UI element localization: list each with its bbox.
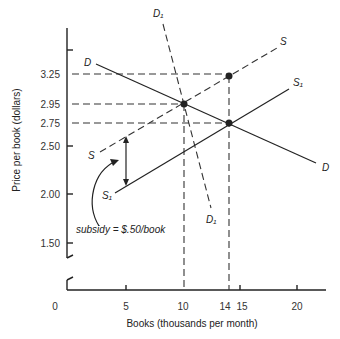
x-tick-0: 0 [52,301,58,312]
label-d-end: D [322,162,329,173]
x-axis [67,285,326,290]
label-s-end: S [280,36,287,47]
supply-curve-s1 [115,89,289,193]
y-axis [67,28,73,290]
supply-demand-diagram: D D D₁ D₁ S S S₁ S₁ subsidy = $.50/book … [0,0,340,339]
demand-curve-d1 [163,24,211,208]
x-tick-10: 10 [177,301,189,312]
equilibrium-dot-original [181,101,188,108]
y-tick-labels: 3.25 2.95 2.75 2.50 2.00 1.50 [41,69,61,249]
x-tick-15: 15 [236,301,248,312]
equilibrium-dot-producer-price [226,73,233,80]
label-d1-start: D₁ [153,8,163,19]
y-tick-2-50: 2.50 [41,141,61,152]
label-s1-start: S₁ [102,190,112,201]
demand-curve-d [96,64,316,163]
label-d1-end: D₁ [206,214,216,225]
x-axis-title: Books (thousands per month) [126,318,257,329]
subsidy-double-arrow-icon [123,136,129,186]
y-tick-2-75: 2.75 [41,118,61,129]
x-tick-20: 20 [291,301,303,312]
y-tick-1-50: 1.50 [41,238,61,249]
label-d-start: D [84,57,91,68]
subsidy-annotation: subsidy = $.50/book [76,224,166,235]
equilibrium-dot-consumer-price [226,120,233,127]
label-s1-end: S₁ [293,77,303,88]
supply-curve-s [100,48,277,152]
y-tick-2-00: 2.00 [41,189,61,200]
label-s-start: S [88,150,95,161]
x-tick-labels: 0 5 10 14 15 20 [52,301,303,312]
y-tick-3-25: 3.25 [41,69,61,80]
x-tick-5: 5 [123,301,129,312]
y-axis-title: Price per book (dollars) [11,88,22,191]
x-tick-14: 14 [219,301,231,312]
y-tick-2-95: 2.95 [41,99,61,110]
